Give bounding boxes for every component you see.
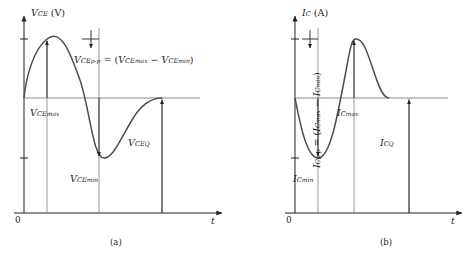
- panel-a-label-vcemax: VCEmax: [30, 108, 59, 118]
- panel-b-label-icmin: ICmin: [293, 174, 313, 184]
- panel-b-y-axis-unit: (A): [314, 7, 328, 18]
- figure-root: VCE (V) 0 t VCEmax VCEmin VCEQ VCEp-p = …: [0, 0, 474, 258]
- panel-b-caption: (b): [380, 238, 392, 247]
- panel-b-label-icq: ICQ: [380, 138, 394, 148]
- panel-a-x-axis-label: t: [211, 216, 215, 226]
- panel-b-label-icmax: ICmax: [337, 108, 358, 118]
- panel-a-y-axis-var: V: [31, 7, 38, 18]
- panel-b-x-axis-label: t: [451, 216, 455, 226]
- panel-a-caption: (a): [110, 238, 122, 247]
- panel-a-y-axis-sub: CE: [38, 10, 48, 18]
- panel-a-y-axis-label: VCE (V): [31, 8, 65, 18]
- panel-a-y-axis-unit: (V): [51, 7, 65, 18]
- panel-a-label-vcemin: VCEmin: [70, 174, 98, 184]
- panel-a-origin-label: 0: [15, 216, 21, 225]
- panel-b-label-icpp-equation: ICp-p = (ICmax − ICmin): [312, 72, 322, 168]
- panel-b-y-axis-label: IC (A): [302, 8, 328, 18]
- panel-a-label-vceq: VCEQ: [128, 138, 150, 148]
- panel-b-origin-label: 0: [286, 216, 292, 225]
- figure-canvas: [0, 0, 474, 258]
- panel-a-label-vcepp-equation: VCEp-p = (VCEmax − VCEmin): [74, 55, 194, 65]
